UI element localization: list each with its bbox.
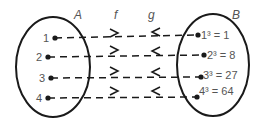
set-b-element: 1³ = 1 (201, 29, 229, 41)
set-b-element: 4³ = 64 (199, 85, 234, 97)
set-a-element: 4 (36, 92, 42, 104)
set-b-label: B (232, 8, 240, 22)
f-arrowheads (110, 29, 118, 95)
set-a-points (45, 35, 57, 100)
set-a-element: 3 (39, 72, 45, 84)
set-b-element: 2³ = 8 (207, 49, 235, 61)
f-label: f (114, 8, 119, 22)
set-a-element: 2 (36, 51, 42, 63)
mapping-diagram: A B f g 1 2 3 4 1³ = 1 2³ (0, 0, 267, 129)
set-b-element: 3³ = 27 (203, 69, 238, 81)
g-arrowheads (152, 28, 160, 95)
set-a-oval (16, 17, 90, 117)
set-a-element: 1 (43, 32, 49, 44)
set-a-label: A (73, 8, 82, 22)
g-label: g (148, 8, 155, 22)
